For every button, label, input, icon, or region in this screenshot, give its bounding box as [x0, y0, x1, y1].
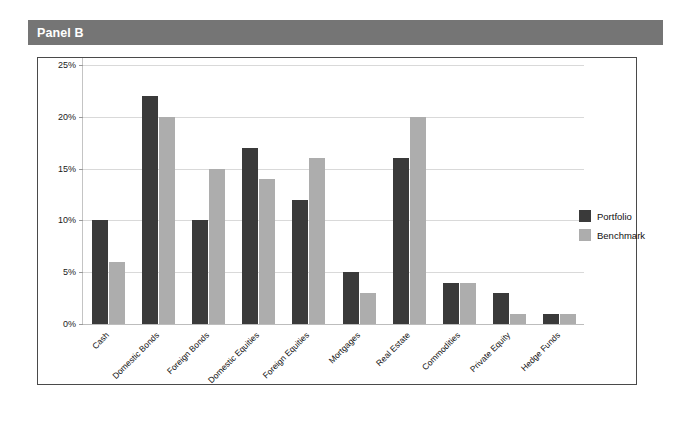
- bar-benchmark[interactable]: [259, 179, 275, 324]
- bar-benchmark[interactable]: [209, 169, 225, 324]
- bar-portfolio[interactable]: [543, 314, 559, 324]
- bar-benchmark[interactable]: [109, 262, 125, 324]
- bar-group: Private Equity: [493, 65, 543, 324]
- bar-group: Mortgages: [343, 65, 393, 324]
- portfolio-swatch: [579, 210, 591, 222]
- chart-legend: PortfolioBenchmark: [579, 210, 645, 248]
- y-tick-mark: [79, 272, 83, 273]
- bar-benchmark[interactable]: [560, 314, 576, 324]
- y-axis-tick-label: 25%: [58, 60, 76, 70]
- x-axis-category-label-text: Cash: [90, 330, 111, 351]
- panel-header: Panel B: [28, 20, 663, 45]
- bar-group: Foreign Equities: [292, 65, 342, 324]
- bar-benchmark[interactable]: [159, 117, 175, 324]
- bar-group: Hedge Funds: [543, 65, 593, 324]
- y-axis-tick-label: 20%: [58, 112, 76, 122]
- x-axis-category-label: Domestic Equities: [206, 330, 261, 385]
- x-axis-category-label-text: Real Estate: [374, 330, 412, 368]
- x-axis-category-label: Commodities: [420, 330, 462, 372]
- x-axis-category-label: Domestic Bonds: [110, 330, 161, 381]
- bar-portfolio[interactable]: [92, 220, 108, 324]
- x-axis-category-label: Private Equity: [468, 330, 512, 374]
- bar-group: Domestic Equities: [242, 65, 292, 324]
- y-axis-tick-label: 5%: [63, 267, 76, 277]
- chart-frame: 0%5%10%15%20%25% CashDomestic BondsForei…: [37, 57, 637, 385]
- y-tick-mark: [79, 117, 83, 118]
- x-axis-category-label-text: Mortgages: [326, 330, 361, 365]
- x-axis-category-label-text: Domestic Equities: [206, 330, 261, 385]
- x-axis-category-label-text: Foreign Bonds: [165, 330, 211, 376]
- x-axis-category-label-text: Private Equity: [468, 330, 512, 374]
- bar-benchmark[interactable]: [410, 117, 426, 324]
- legend-item-label: Portfolio: [597, 211, 632, 222]
- bar-portfolio[interactable]: [142, 96, 158, 324]
- bar-group: Foreign Bonds: [192, 65, 242, 324]
- gridline-0: [83, 324, 584, 325]
- y-tick-mark: [79, 324, 83, 325]
- y-tick-mark: [79, 65, 83, 66]
- x-axis-category-label: Foreign Bonds: [165, 330, 211, 376]
- panel-title: Panel B: [28, 26, 84, 40]
- x-axis-category-label-text: Foreign Equities: [261, 330, 312, 381]
- bar-portfolio[interactable]: [192, 220, 208, 324]
- plot-area: 0%5%10%15%20%25% CashDomestic BondsForei…: [83, 65, 584, 324]
- bar-group: Cash: [92, 65, 142, 324]
- bar-portfolio[interactable]: [393, 158, 409, 324]
- x-axis-category-label-text: Hedge Funds: [519, 330, 562, 373]
- bar-group: Real Estate: [393, 65, 443, 324]
- x-axis-category-label-text: Commodities: [420, 330, 462, 372]
- bar-benchmark[interactable]: [360, 293, 376, 324]
- legend-item-label: Benchmark: [597, 230, 645, 241]
- bar-group: Commodities: [443, 65, 493, 324]
- x-axis-category-label: Real Estate: [374, 330, 412, 368]
- bar-portfolio[interactable]: [343, 272, 359, 324]
- x-axis-category-label: Cash: [90, 330, 111, 351]
- bar-portfolio[interactable]: [242, 148, 258, 324]
- bar-portfolio[interactable]: [493, 293, 509, 324]
- bar-group: Domestic Bonds: [142, 65, 192, 324]
- y-axis-tick-label: 0%: [63, 319, 76, 329]
- bar-portfolio[interactable]: [443, 283, 459, 324]
- x-axis-category-label-text: Domestic Bonds: [110, 330, 161, 381]
- bar-benchmark[interactable]: [510, 314, 526, 324]
- y-axis-tick-label: 10%: [58, 215, 76, 225]
- x-axis-category-label: Mortgages: [326, 330, 361, 365]
- bar-benchmark[interactable]: [460, 283, 476, 324]
- x-axis-category-label: Hedge Funds: [519, 330, 562, 373]
- legend-item[interactable]: Benchmark: [579, 229, 645, 241]
- legend-item[interactable]: Portfolio: [579, 210, 645, 222]
- bar-benchmark[interactable]: [309, 158, 325, 324]
- benchmark-swatch: [579, 229, 591, 241]
- y-axis-line: [82, 58, 83, 324]
- y-axis-tick-label: 15%: [58, 164, 76, 174]
- y-tick-mark: [79, 169, 83, 170]
- bar-portfolio[interactable]: [292, 200, 308, 324]
- x-axis-category-label: Foreign Equities: [261, 330, 312, 381]
- y-tick-mark: [79, 220, 83, 221]
